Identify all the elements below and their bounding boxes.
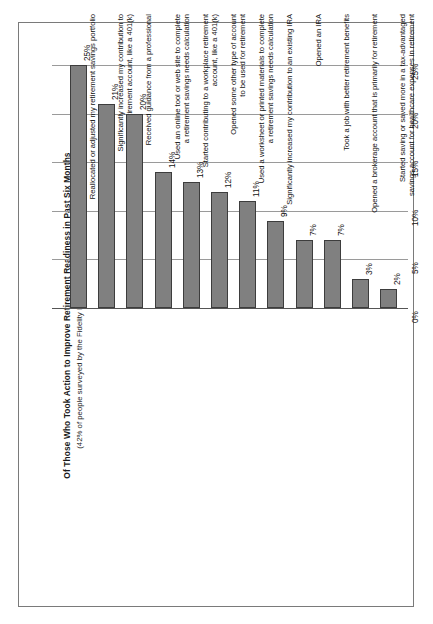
chart-page: Of Those Who Took Action to Improve Reti… <box>0 0 433 624</box>
category-label: Opened a brokerage account that is prima… <box>370 14 379 314</box>
category-label-line: Used a worksheet or printed materials to… <box>257 14 266 314</box>
bar <box>155 172 172 308</box>
plot-area: 0%5%10%15%20%25%25%Reallocated or adjust… <box>52 24 414 308</box>
category-label-line: Significantly increased my contribution … <box>285 14 294 314</box>
category-label: Took a job with better retirement benefi… <box>342 14 351 314</box>
category-label-line: Started contributing to a workplace reti… <box>201 14 210 314</box>
category-label-line: Reallocated or adjusted my retirement sa… <box>88 14 97 314</box>
bar <box>98 104 115 308</box>
bar <box>296 240 313 308</box>
bar <box>324 240 341 308</box>
bar <box>267 221 284 308</box>
category-label-line: Started saving or saved more in a tax-ad… <box>398 14 407 314</box>
bar <box>70 65 87 308</box>
bar <box>239 201 256 308</box>
category-label: Significantly increased my contribution … <box>285 14 294 314</box>
category-label-line: Used an online tool or web site to compl… <box>173 14 182 314</box>
bar <box>126 114 143 308</box>
bar <box>211 192 228 308</box>
category-label-line: Received guidance from a professional <box>144 14 153 314</box>
category-label-line: savings account for healthcare expenses … <box>407 14 416 314</box>
category-label-line: Significantly increased my contribution … <box>116 14 125 314</box>
bar <box>352 279 369 308</box>
bar <box>183 182 200 308</box>
category-label: Received guidance from a professional <box>144 14 153 314</box>
category-label-line: Took a job with better retirement benefi… <box>342 14 351 314</box>
category-label: Reallocated or adjusted my retirement sa… <box>88 14 97 314</box>
bar <box>380 289 397 308</box>
category-label: Started saving or saved more in a tax-ad… <box>398 14 416 314</box>
category-label-line: Opened some other type of account <box>229 14 238 314</box>
category-label-line: Opened a brokerage account that is prima… <box>370 14 379 314</box>
chart-frame: Of Those Who Took Action to Improve Reti… <box>18 22 414 607</box>
category-label-line: Opened an IRA <box>314 14 323 314</box>
category-label: Opened an IRA <box>314 14 323 314</box>
